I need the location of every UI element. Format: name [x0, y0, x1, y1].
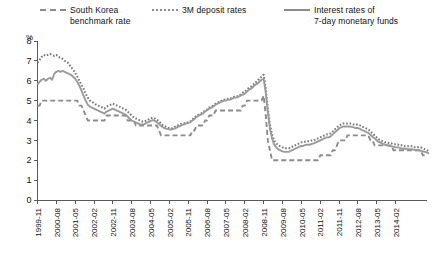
x-tick-label: 2000-08 — [53, 207, 62, 237]
x-tick-label: 2013-05 — [373, 207, 382, 237]
y-tick-label: 3 — [26, 136, 31, 146]
x-tick-label: 2014-02 — [392, 207, 401, 237]
series-lines — [38, 54, 430, 160]
line-chart-svg: 012345678 1999-112000-082001-052002-0220… — [0, 0, 442, 266]
x-tick-label: 2001-05 — [71, 207, 80, 237]
y-axis: 012345678 — [26, 36, 37, 205]
x-tick-label: 2012-08 — [354, 207, 363, 237]
x-tick-label: 2003-08 — [128, 207, 137, 237]
chart-figure: South Korea benchmark rate 3M deposit ra… — [0, 0, 442, 266]
x-tick-label: 2007-05 — [222, 207, 231, 237]
x-tick-label: 2011-02 — [316, 207, 325, 236]
y-tick-label: 1 — [26, 175, 31, 185]
x-tick-label: 2004-05 — [147, 207, 156, 237]
series-line-1 — [38, 54, 430, 151]
x-tick-label: 1999-11 — [34, 207, 43, 236]
y-tick-label: 4 — [26, 116, 31, 126]
y-tick-label: 8 — [26, 36, 31, 46]
x-tick-label: 2006-08 — [203, 207, 212, 237]
x-tick-label: 2009-08 — [279, 207, 288, 237]
y-tick-label: 5 — [26, 96, 31, 106]
x-tick-label: 2008-02 — [241, 207, 250, 237]
x-tick-label: 2008-11 — [260, 207, 269, 236]
y-tick-label: 2 — [26, 155, 31, 165]
x-tick-label: 2005-11 — [184, 207, 193, 236]
x-axis: 1999-112000-082001-052002-022002-112003-… — [34, 200, 427, 237]
y-tick-label: 7 — [26, 56, 31, 66]
y-tick-label: 6 — [26, 76, 31, 86]
x-tick-label: 2011-11 — [335, 207, 344, 236]
x-tick-label: 2010-05 — [298, 207, 307, 237]
x-tick-label: 2002-11 — [109, 207, 118, 236]
x-tick-label: 2002-02 — [90, 207, 99, 237]
x-tick-label: 2005-02 — [166, 207, 175, 237]
y-tick-label: 0 — [26, 195, 31, 205]
plot-area: 012345678 1999-112000-082001-052002-0220… — [0, 0, 442, 266]
